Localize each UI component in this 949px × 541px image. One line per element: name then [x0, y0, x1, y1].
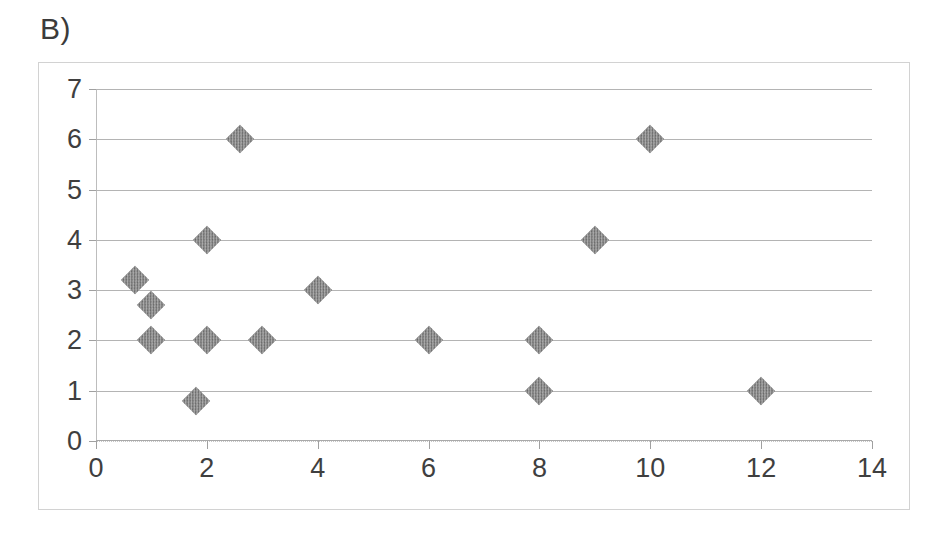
x-tick-mark-12 — [761, 441, 762, 449]
data-point — [193, 326, 221, 354]
gridline-y-5 — [96, 190, 872, 191]
x-tick-mark-10 — [650, 441, 651, 449]
gridline-y-0 — [96, 441, 872, 442]
x-tick-mark-4 — [318, 441, 319, 449]
data-point — [414, 326, 442, 354]
data-point — [525, 326, 553, 354]
x-tick-label-8: 8 — [532, 455, 547, 482]
x-tick-mark-0 — [96, 441, 97, 449]
y-tick-mark-3 — [89, 290, 96, 291]
x-tick-label-0: 0 — [88, 455, 103, 482]
data-point — [525, 377, 553, 405]
data-point — [747, 377, 775, 405]
y-tick-label-5: 5 — [67, 176, 82, 203]
y-tick-label-7: 7 — [67, 76, 82, 103]
y-tick-mark-7 — [89, 89, 96, 90]
gridline-y-6 — [96, 139, 872, 140]
x-tick-label-6: 6 — [421, 455, 436, 482]
data-point — [248, 326, 276, 354]
x-tick-mark-14 — [872, 441, 873, 449]
y-tick-mark-0 — [89, 441, 96, 442]
y-tick-mark-4 — [89, 240, 96, 241]
y-axis-line — [96, 89, 97, 441]
data-point — [304, 276, 332, 304]
x-tick-mark-6 — [429, 441, 430, 449]
chart-frame: 01234567 02468101214 — [38, 62, 910, 510]
plot-area: 01234567 02468101214 — [96, 89, 872, 441]
data-point — [193, 226, 221, 254]
data-point — [636, 125, 664, 153]
x-tick-label-4: 4 — [310, 455, 325, 482]
y-tick-label-0: 0 — [67, 428, 82, 455]
data-point — [226, 125, 254, 153]
y-tick-label-2: 2 — [67, 327, 82, 354]
x-tick-label-14: 14 — [857, 455, 887, 482]
x-tick-label-10: 10 — [635, 455, 665, 482]
gridline-y-3 — [96, 290, 872, 291]
y-tick-mark-1 — [89, 391, 96, 392]
y-tick-label-6: 6 — [67, 126, 82, 153]
x-tick-label-12: 12 — [746, 455, 776, 482]
data-point — [581, 226, 609, 254]
x-tick-mark-8 — [539, 441, 540, 449]
data-point — [137, 326, 165, 354]
y-tick-label-1: 1 — [67, 377, 82, 404]
gridline-y-7 — [96, 89, 872, 90]
y-tick-mark-6 — [89, 139, 96, 140]
y-tick-mark-5 — [89, 190, 96, 191]
y-tick-label-4: 4 — [67, 226, 82, 253]
page-title: B) — [40, 14, 71, 44]
y-tick-label-3: 3 — [67, 277, 82, 304]
data-point — [137, 291, 165, 319]
x-tick-mark-2 — [207, 441, 208, 449]
y-tick-mark-2 — [89, 340, 96, 341]
x-tick-label-2: 2 — [199, 455, 214, 482]
